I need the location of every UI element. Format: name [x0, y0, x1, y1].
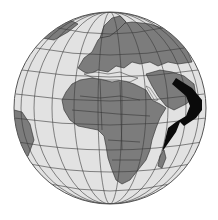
globe-map	[0, 0, 218, 220]
